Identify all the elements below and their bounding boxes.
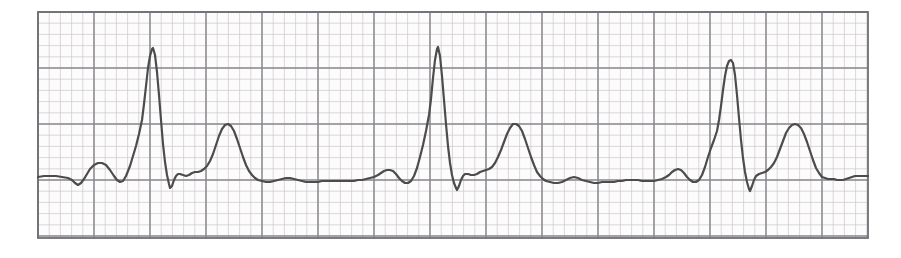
- ecg-strip-canvas: [0, 0, 901, 258]
- ecg-chart: [0, 0, 901, 258]
- ecg-strip-viewer: [0, 0, 901, 258]
